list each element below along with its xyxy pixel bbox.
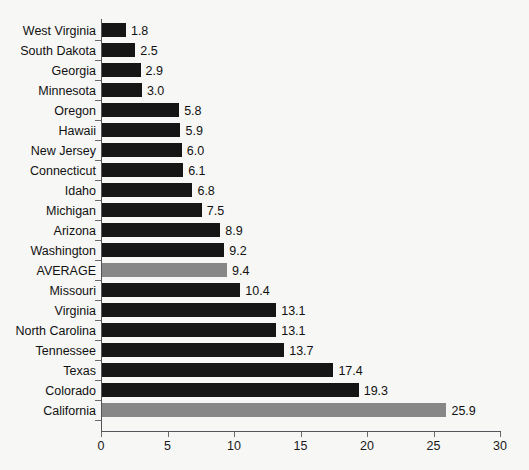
bar-value-label: 25.9 xyxy=(451,404,475,418)
category-label: California xyxy=(43,404,96,418)
bar xyxy=(102,263,227,277)
bar xyxy=(102,23,126,37)
y-axis-tick xyxy=(95,280,101,281)
bar xyxy=(102,83,142,97)
x-axis-tick xyxy=(234,432,235,437)
bar-value-label: 19.3 xyxy=(364,384,388,398)
category-label: Tennessee xyxy=(36,344,96,358)
x-axis-tick-label: 0 xyxy=(98,439,105,453)
x-axis-tick-label: 15 xyxy=(294,439,308,453)
bar xyxy=(102,363,333,377)
bar xyxy=(102,323,276,337)
x-axis-tick xyxy=(367,432,368,437)
bar-value-label: 7.5 xyxy=(207,204,224,218)
bar-value-label: 8.9 xyxy=(225,224,242,238)
y-axis-tick xyxy=(95,320,101,321)
bar xyxy=(102,223,220,237)
bar-value-label: 5.8 xyxy=(184,104,201,118)
x-axis-tick xyxy=(434,432,435,437)
bar xyxy=(102,183,192,197)
bar xyxy=(102,203,202,217)
y-axis-tick xyxy=(95,400,101,401)
y-axis-tick xyxy=(95,180,101,181)
bar-chart: 051015202530 West VirginiaSouth DakotaGe… xyxy=(0,0,529,470)
bar-value-label: 10.4 xyxy=(245,284,269,298)
y-axis-tick xyxy=(95,340,101,341)
bar-value-label: 17.4 xyxy=(338,364,362,378)
bar xyxy=(102,383,359,397)
y-axis-tick xyxy=(95,120,101,121)
x-axis-tick-label: 25 xyxy=(427,439,441,453)
y-axis-tick xyxy=(95,300,101,301)
y-axis-tick xyxy=(95,60,101,61)
y-axis-tick xyxy=(95,80,101,81)
bar-value-label: 2.9 xyxy=(146,64,163,78)
x-axis-tick-label: 20 xyxy=(360,439,374,453)
x-axis-tick-label: 10 xyxy=(227,439,241,453)
category-label: Hawaii xyxy=(58,124,96,138)
category-label: Virginia xyxy=(55,304,96,318)
category-label: South Dakota xyxy=(20,44,96,58)
category-label: West Virginia xyxy=(23,24,96,38)
category-label: Minnesota xyxy=(38,84,96,98)
y-axis-tick xyxy=(95,160,101,161)
y-axis-tick xyxy=(95,240,101,241)
bar-value-label: 9.4 xyxy=(232,264,249,278)
y-axis-tick xyxy=(95,100,101,101)
category-label: Connecticut xyxy=(30,164,96,178)
bar xyxy=(102,123,180,137)
category-label: Idaho xyxy=(65,184,96,198)
x-axis-tick-label: 5 xyxy=(164,439,171,453)
category-label: Colorado xyxy=(45,384,96,398)
bar xyxy=(102,283,240,297)
bar xyxy=(102,63,141,77)
x-axis-tick xyxy=(168,432,169,437)
category-label: Michigan xyxy=(46,204,96,218)
bar xyxy=(102,303,276,317)
bar-value-label: 5.9 xyxy=(185,124,202,138)
bar-value-label: 6.8 xyxy=(197,184,214,198)
category-label: AVERAGE xyxy=(36,264,96,278)
x-axis-tick-label: 30 xyxy=(493,439,507,453)
bar-value-label: 2.5 xyxy=(140,44,157,58)
bar xyxy=(102,103,179,117)
x-axis-tick xyxy=(500,432,501,437)
y-axis-tick xyxy=(95,200,101,201)
bar-value-label: 6.1 xyxy=(188,164,205,178)
bar xyxy=(102,163,183,177)
y-axis-tick xyxy=(95,140,101,141)
category-label: Washington xyxy=(30,244,96,258)
bar-value-label: 1.8 xyxy=(131,24,148,38)
y-axis-tick xyxy=(95,380,101,381)
bar xyxy=(102,403,446,417)
bar-value-label: 13.7 xyxy=(289,344,313,358)
category-label: New Jersey xyxy=(31,144,96,158)
category-label: Oregon xyxy=(54,104,96,118)
bar-value-label: 13.1 xyxy=(281,304,305,318)
y-axis-tick xyxy=(95,420,101,421)
x-axis-tick xyxy=(101,432,102,437)
bar xyxy=(102,243,224,257)
y-axis-tick xyxy=(95,260,101,261)
category-label: Texas xyxy=(63,364,96,378)
category-label: Missouri xyxy=(49,284,96,298)
category-label: Arizona xyxy=(54,224,96,238)
bar-value-label: 9.2 xyxy=(229,244,246,258)
category-label: Georgia xyxy=(52,64,96,78)
bar-value-label: 3.0 xyxy=(147,84,164,98)
y-axis-tick xyxy=(95,220,101,221)
y-axis-tick xyxy=(95,360,101,361)
bar-value-label: 6.0 xyxy=(187,144,204,158)
bar xyxy=(102,43,135,57)
bar xyxy=(102,343,284,357)
bar xyxy=(102,143,182,157)
y-axis-tick xyxy=(95,40,101,41)
category-label: North Carolina xyxy=(15,324,96,338)
bar-value-label: 13.1 xyxy=(281,324,305,338)
x-axis-tick xyxy=(301,432,302,437)
